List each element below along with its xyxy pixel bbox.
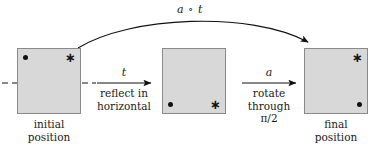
panel-initial-square: ∗: [17, 48, 81, 114]
transition-symbol-t: t: [101, 66, 147, 79]
panel-middle-mark-asterisk: ∗: [210, 98, 221, 111]
panel-final-square: ∗: [304, 48, 368, 114]
panel-final-mark-asterisk: ∗: [352, 51, 363, 64]
panel-final-caption: final position: [296, 118, 376, 144]
panel-initial-mark-dot: [23, 55, 28, 60]
panel-middle-square: ∗: [162, 48, 226, 114]
composition-arc: [78, 21, 308, 48]
transition-description-t: reflect in horizontal: [91, 87, 157, 112]
figure-canvas: a ∘ t ∗ init: [0, 0, 381, 157]
panel-initial-mark-asterisk: ∗: [65, 51, 76, 64]
panel-final-mark-dot: [357, 102, 362, 107]
panel-initial-caption: initial position: [9, 118, 89, 144]
transition-description-a: rotate through π/2: [238, 87, 300, 125]
panel-middle-mark-dot: [168, 102, 173, 107]
transition-symbol-a: a: [246, 66, 292, 79]
